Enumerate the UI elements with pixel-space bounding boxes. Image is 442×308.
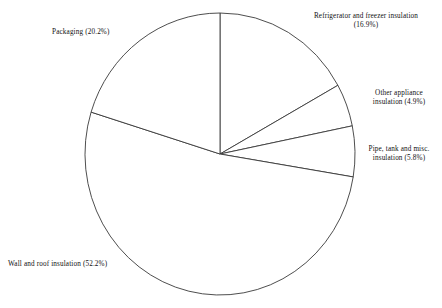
slice-label-pipe-tank-and-misc-insulation: Pipe, tank and misc. insulation (5.8%) <box>356 145 442 164</box>
pie-slice-group <box>85 13 355 295</box>
slice-label-wall-and-roof-insulation: Wall and roof insulation (52.2%) <box>8 260 188 269</box>
slice-label-other-appliance-insulation: Other appliance insulation (4.9%) <box>356 89 442 108</box>
slice-label-packaging: Packaging (20.2%) <box>52 28 184 37</box>
pie-chart: Refrigerator and freezer insulation (16.… <box>0 0 442 308</box>
slice-label-refrigerator-and-freezer-insulation: Refrigerator and freezer insulation (16.… <box>292 12 440 31</box>
